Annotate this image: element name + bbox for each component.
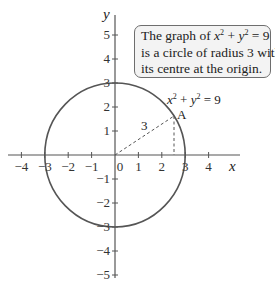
svg-text:−1: −1 [96,171,110,186]
svg-text:−2: −2 [96,195,110,210]
svg-text:4: 4 [205,159,212,174]
svg-text:3: 3 [182,159,189,174]
svg-text:−3: −3 [38,159,52,174]
svg-text:−4: −4 [96,243,110,258]
svg-text:1: 1 [135,159,142,174]
svg-text:0: 0 [117,159,124,174]
y-axis-label: y [101,6,110,22]
point-a-label: A [177,107,187,122]
x-axis-label: x [228,158,236,174]
svg-text:4: 4 [104,51,111,66]
svg-text:1: 1 [104,123,111,138]
svg-text:−4: −4 [14,159,28,174]
radius-label: 3 [141,118,148,133]
callout-line-3: its centre at the origin. [141,61,270,78]
svg-text:−2: −2 [61,159,75,174]
callout-box: The graph of x2 + y2 = 9 is a circle of … [134,25,271,78]
svg-text:−3: −3 [96,219,110,234]
svg-text:−5: −5 [96,267,110,282]
svg-text:2: 2 [159,159,166,174]
svg-text:2: 2 [104,99,111,114]
svg-text:5: 5 [104,27,111,42]
callout-line-2: is a circle of radius 3 with [141,45,270,62]
x-tick-labels: −4 −3 −2 −1 0 1 2 3 4 [14,159,212,174]
svg-text:3: 3 [104,75,111,90]
callout-line-1: The graph of x2 + y2 = 9 [141,28,270,45]
curve-equation-label: x2 + y2 = 9 [166,92,221,107]
